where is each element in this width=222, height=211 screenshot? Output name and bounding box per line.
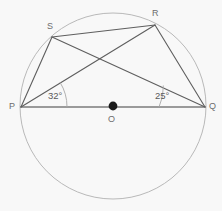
vertex-label-r: R (152, 8, 159, 18)
vertex-label-p: P (9, 101, 15, 111)
vertex-label-q: Q (209, 101, 216, 111)
center-point-o (109, 102, 118, 111)
geometry-diagram: P Q S R O 32° 25° (0, 0, 222, 211)
segment-sq-diagonal (52, 37, 205, 107)
angle-label-at-p: 32° (48, 90, 62, 101)
segment-sr (52, 25, 155, 37)
geometry-canvas (0, 0, 222, 211)
angle-label-at-q: 25° (155, 90, 169, 101)
vertex-label-o: O (108, 114, 115, 124)
vertex-label-s: S (47, 21, 53, 31)
segment-pr-diagonal (21, 25, 155, 107)
